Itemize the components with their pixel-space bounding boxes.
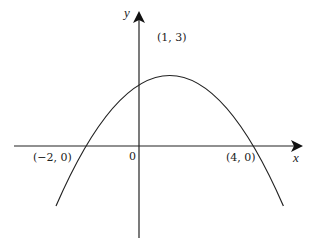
parabola-diagram: y x 0 (1, 3) (−2, 0) (4, 0) — [0, 0, 319, 251]
left-root-label: (−2, 0) — [33, 151, 72, 164]
right-root-label: (4, 0) — [226, 151, 256, 164]
parabola-curve — [56, 76, 283, 207]
y-axis-label: y — [122, 5, 130, 20]
vertex-label: (1, 3) — [157, 31, 187, 44]
origin-label: 0 — [129, 150, 136, 163]
x-axis-label: x — [292, 150, 299, 165]
